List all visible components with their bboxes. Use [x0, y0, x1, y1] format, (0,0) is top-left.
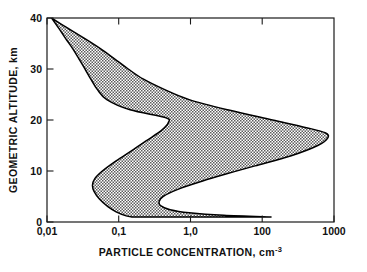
y-ticklabel-20: 20: [30, 114, 42, 126]
x-ticklabel-1: 0,1: [111, 225, 126, 237]
y-ticklabel-10: 10: [30, 165, 42, 177]
y-axis-tick-labels: 0 10 20 30 40: [30, 12, 42, 228]
x-axis-tick-labels: 0,01 0,1 1,0 100 1000: [37, 225, 346, 237]
y-ticklabel-40: 40: [30, 12, 42, 24]
x-axis-title: PARTICLE CONCENTRATION, cm-3: [99, 245, 283, 258]
y-ticklabel-30: 30: [30, 63, 42, 75]
x-axis-title-exponent: -3: [275, 245, 282, 254]
y-ticklabel-0: 0: [36, 216, 42, 228]
chart-figure-root: 0,01 0,1 1,0 100 1000 0 10 20 30 40 PART…: [0, 0, 367, 272]
x-ticklabel-3: 100: [253, 225, 271, 237]
x-ticklabel-2: 1,0: [183, 225, 198, 237]
x-ticklabel-4: 1000: [322, 225, 346, 237]
particle-concentration-altitude-chart: 0,01 0,1 1,0 100 1000 0 10 20 30 40 PART…: [0, 0, 367, 272]
y-axis-title: GEOMETRIC ALTITUDE, km: [7, 47, 19, 193]
x-axis-title-text: PARTICLE CONCENTRATION, cm: [99, 246, 275, 258]
